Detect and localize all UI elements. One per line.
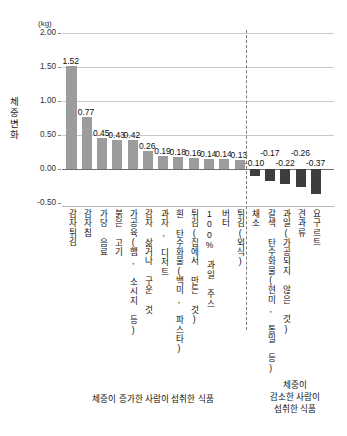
y-axis-tick-mark: [58, 67, 61, 68]
category-label-group: 감자튀김감자칩가당 음료붉은 고기가공육(햄, 소시지 등)감자 삶거나 구운 …: [62, 209, 334, 327]
weight-change-bar-chart: (kg) 체중 변화 2.001.501.000.500.00-0.50 1.5…: [0, 0, 347, 436]
bar: [82, 117, 92, 169]
category-label: 감자 삶거나 구운 것: [143, 209, 154, 325]
category-label: 가공육(햄, 소시지 등): [128, 209, 139, 325]
bar-value-label: -0.37: [306, 158, 325, 168]
bar-value-label: -0.26: [291, 148, 310, 158]
gridline: [62, 33, 334, 34]
caption-weight-gain-group: 체중이 증가한 사람이 섭취한 식품: [62, 393, 244, 405]
y-axis-tick-label: 2.00: [22, 28, 56, 37]
category-label: 가당 음료: [97, 209, 108, 325]
bar: [112, 140, 122, 169]
bar-value-label: 0.14: [215, 149, 232, 159]
category-label: 요구르트: [311, 209, 322, 325]
category-label: 버터: [219, 209, 230, 325]
category-label: 튀김(외식): [235, 209, 246, 325]
bar: [173, 157, 183, 169]
bar: [97, 138, 107, 169]
bar-value-label: 0.18: [169, 147, 186, 157]
category-label: 감자칩: [82, 209, 93, 325]
y-axis-tick-label: 1.50: [22, 62, 56, 71]
y-axis-tick-label: 1.00: [22, 96, 56, 105]
bar-value-label: -0.22: [275, 158, 294, 168]
y-axis-title: 체중 변화: [8, 96, 22, 140]
category-label: 과일(가공되지 않은 것): [280, 209, 291, 325]
y-axis-tick-mark: [58, 135, 61, 136]
bar-value-label: 0.19: [154, 146, 171, 156]
plot-area: 1.520.770.450.430.420.260.190.180.160.14…: [62, 33, 334, 203]
y-axis-tick-mark: [58, 169, 61, 170]
bar: [66, 66, 76, 169]
bar-value-label: -0.10: [245, 158, 264, 168]
bar-value-label: 0.43: [108, 130, 125, 140]
bar-value-label: -0.17: [260, 148, 279, 158]
category-label: 갈색 탄수화물(현미, 통밀 등): [265, 209, 276, 325]
bar: [128, 140, 138, 169]
y-axis-unit-label: (kg): [38, 19, 52, 28]
bar-value-label: 0.77: [78, 107, 95, 117]
caption-loss-line-2: 감소한 사람이: [252, 391, 338, 403]
y-axis-tick-mark: [58, 101, 61, 102]
category-label: 흰 탄수화물(백미, 파스타): [173, 209, 184, 325]
category-label: 100% 과일 주스: [204, 209, 215, 325]
bar: [204, 159, 214, 169]
bar-value-label: 0.42: [124, 130, 141, 140]
y-axis-tick-label: 0.00: [22, 164, 56, 173]
bar: [296, 169, 306, 187]
gridline: [62, 101, 334, 102]
y-axis-tick-label: -0.50: [22, 198, 56, 207]
gridline: [62, 67, 334, 68]
bar: [189, 158, 199, 169]
bar-value-label: 0.26: [139, 141, 156, 151]
zero-line: [62, 169, 334, 170]
bar: [311, 169, 321, 194]
bar: [250, 169, 260, 176]
category-label: 감자튀김: [66, 209, 77, 325]
category-label: 튀김(집에서 만든 것): [189, 209, 200, 325]
caption-loss-line-3: 섭취한 식품: [252, 403, 338, 415]
category-label: 붉은 고기: [112, 209, 123, 325]
bar: [219, 159, 229, 169]
y-axis-tick-label: 0.50: [22, 130, 56, 139]
bar-value-label: 0.45: [93, 128, 110, 138]
bar: [235, 160, 245, 169]
bar: [158, 156, 168, 169]
y-axis-tick-mark: [58, 203, 61, 204]
bar: [265, 169, 275, 181]
caption-weight-loss-group: 체중이 감소한 사람이 섭취한 식품: [252, 379, 338, 415]
bar: [143, 151, 153, 169]
category-label: 과자, 디저트: [158, 209, 169, 325]
bar: [280, 169, 290, 184]
bar-value-label: 1.52: [62, 56, 79, 66]
category-axis-rule: [62, 206, 334, 207]
bar-value-label: 0.16: [185, 148, 202, 158]
y-axis-tick-mark: [58, 33, 61, 34]
bar-value-label: 0.14: [200, 149, 217, 159]
category-label: 견과류: [296, 209, 307, 325]
caption-loss-line-1: 체중이: [252, 379, 338, 391]
category-label: 채소: [250, 209, 261, 325]
